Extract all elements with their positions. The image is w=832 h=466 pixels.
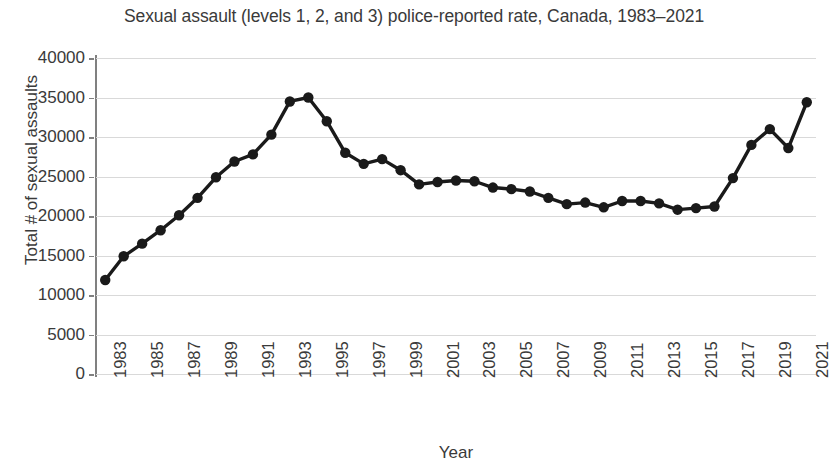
- data-point: [562, 199, 572, 209]
- x-axis-tick-label: 2013: [665, 341, 684, 378]
- y-axis-tick-mark: [89, 374, 94, 376]
- data-point: [174, 210, 184, 220]
- data-point: [414, 179, 424, 189]
- x-axis-tick-label: 1997: [370, 341, 389, 378]
- data-point: [728, 173, 738, 183]
- data-point: [192, 193, 202, 203]
- x-axis-tick-label: 1999: [407, 341, 426, 378]
- data-point: [525, 186, 535, 196]
- data-point: [635, 196, 645, 206]
- y-axis-tick-label: 15000: [1, 246, 85, 266]
- data-point: [285, 96, 295, 106]
- data-point: [617, 196, 627, 206]
- data-point: [469, 176, 479, 186]
- data-point: [118, 251, 128, 261]
- x-axis-tick-label: 1985: [148, 341, 167, 378]
- x-axis-tick-label: 2017: [739, 341, 758, 378]
- y-axis-tick-label: 10000: [1, 285, 85, 305]
- y-axis-tick-label: 25000: [1, 167, 85, 187]
- y-axis-title: Total # of sexual assaults: [22, 30, 42, 310]
- data-point: [137, 238, 147, 248]
- plot-area: [96, 58, 816, 374]
- data-point: [211, 172, 221, 182]
- x-axis-tick-label: 1991: [259, 341, 278, 378]
- x-axis-tick-label: 2001: [444, 341, 463, 378]
- x-axis-tick-label: 1995: [333, 341, 352, 378]
- x-axis-tick-label: 2003: [480, 341, 499, 378]
- x-axis-tick-label: 2015: [702, 341, 721, 378]
- y-axis-tick-label: 0: [1, 364, 85, 384]
- x-axis-tick-label: 2021: [813, 341, 832, 378]
- data-point: [802, 97, 812, 107]
- data-point: [765, 124, 775, 134]
- y-axis-tick-mark: [89, 256, 94, 258]
- x-axis-tick-label: 2007: [554, 341, 573, 378]
- x-axis-tick-labels: 1983198519871989199119931995199719992001…: [96, 378, 816, 438]
- data-point: [506, 184, 516, 194]
- data-series: [96, 58, 816, 374]
- data-point: [709, 201, 719, 211]
- y-axis-tick-mark: [89, 335, 94, 337]
- y-axis-tick-mark: [89, 98, 94, 100]
- data-point: [543, 193, 553, 203]
- x-axis-tick-label: 2011: [628, 343, 647, 378]
- x-axis-tick-label: 2019: [776, 341, 795, 378]
- y-axis-tick-mark: [89, 216, 94, 218]
- data-point: [488, 182, 498, 192]
- chart-title: Sexual assault (levels 1, 2, and 3) poli…: [0, 6, 828, 27]
- data-point: [248, 149, 258, 159]
- data-point: [266, 129, 276, 139]
- y-axis-tick-label: 20000: [1, 206, 85, 226]
- data-point: [672, 204, 682, 214]
- data-point: [155, 225, 165, 235]
- data-point: [598, 202, 608, 212]
- data-point: [100, 275, 110, 285]
- x-axis-tick-label: 1993: [296, 341, 315, 378]
- data-point: [580, 197, 590, 207]
- y-axis-tick-mark: [89, 137, 94, 139]
- data-point: [358, 159, 368, 169]
- data-point: [746, 140, 756, 150]
- data-point: [783, 143, 793, 153]
- x-axis-tick-label: 1987: [185, 341, 204, 378]
- y-axis-tick-mark: [89, 58, 94, 60]
- x-axis-tick-label: 2005: [517, 341, 536, 378]
- y-axis-tick-label: 35000: [1, 88, 85, 108]
- data-point: [691, 203, 701, 213]
- y-axis-tick-label: 40000: [1, 48, 85, 68]
- data-point: [340, 148, 350, 158]
- data-point: [322, 116, 332, 126]
- data-point: [451, 175, 461, 185]
- data-point: [377, 154, 387, 164]
- data-point: [654, 198, 664, 208]
- y-axis-tick-label: 30000: [1, 127, 85, 147]
- y-axis-tick-mark: [89, 295, 94, 297]
- x-axis-tick-label: 2009: [591, 341, 610, 378]
- x-axis-tick-label: 1983: [111, 341, 130, 378]
- x-axis-tick-label: 1989: [222, 341, 241, 378]
- y-axis-tick-label: 5000: [1, 325, 85, 345]
- x-axis-title: Year: [96, 443, 816, 463]
- data-point: [432, 177, 442, 187]
- y-axis-tick-labels: 0500010000150002000025000300003500040000: [0, 0, 85, 466]
- series-line: [105, 98, 807, 280]
- data-point: [303, 92, 313, 102]
- data-point: [395, 165, 405, 175]
- y-axis-tick-mark: [89, 177, 94, 179]
- data-point: [229, 156, 239, 166]
